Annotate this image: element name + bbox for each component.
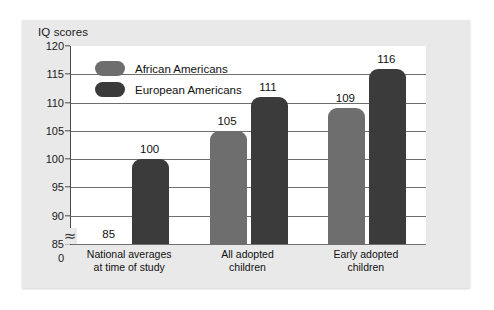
bar-value-label: 111: [259, 81, 276, 93]
bar: [132, 159, 169, 244]
chart-title: IQ scores: [38, 26, 88, 38]
legend-label-african-americans: African Americans: [135, 63, 228, 75]
chart-legend: African Americans European Americans: [95, 58, 242, 100]
bar-value-label: 109: [336, 92, 355, 104]
legend-swatch-icon-european-americans: [95, 82, 125, 97]
y-axis-tick-mark: [65, 187, 70, 188]
x-axis-category-label: Early adopted children: [333, 248, 398, 273]
y-axis-tick-mark: [65, 102, 70, 103]
gridline: [71, 244, 426, 245]
y-axis-tick-label: 120: [46, 40, 64, 52]
plot-area: African Americans European Americans: [70, 46, 426, 245]
bar-value-label: 105: [217, 115, 236, 127]
y-axis-tick-mark: [65, 158, 70, 159]
y-axis-tick-label: 110: [46, 97, 64, 109]
legend-swatch-icon-african-americans: [95, 61, 125, 76]
y-axis-tick-mark: [65, 130, 70, 131]
axis-break-icon: ≈: [63, 228, 77, 244]
bar: [369, 69, 406, 244]
bar: [251, 97, 288, 244]
y-axis-tick-mark: [65, 45, 70, 46]
y-axis-tick-mark: [65, 74, 70, 75]
y-axis-tick-label: 115: [46, 68, 64, 80]
legend-item-european-americans: European Americans: [95, 79, 242, 100]
y-axis-tick-label: 100: [46, 153, 64, 165]
x-axis-category-label: National averages at time of study: [87, 248, 172, 273]
bar: [328, 108, 365, 244]
y-axis-tick-mark: [65, 215, 70, 216]
bar-value-label: 100: [140, 143, 159, 155]
y-axis-tick-label: 90: [52, 210, 64, 222]
chart-figure-panel: IQ scores 1201151101051009590850 African…: [22, 20, 470, 288]
bar-value-label: 116: [377, 53, 395, 65]
bar: [210, 131, 247, 244]
y-axis-tick-labels: 1201151101051009590850: [22, 46, 64, 244]
legend-label-european-americans: European Americans: [135, 84, 242, 96]
bar-value-label: 85: [102, 228, 115, 240]
x-axis-category-label: All adopted children: [221, 248, 274, 273]
y-axis-zero-label: 0: [58, 252, 64, 264]
y-axis-tick-label: 105: [46, 125, 64, 137]
legend-item-african-americans: African Americans: [95, 58, 242, 79]
y-axis-tick-label: 95: [52, 181, 64, 193]
